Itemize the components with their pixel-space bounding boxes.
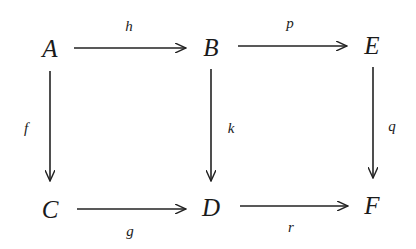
node-f: F: [364, 193, 379, 218]
label-q: q: [388, 119, 396, 134]
label-f: f: [24, 121, 28, 136]
label-g: g: [126, 224, 134, 239]
label-r: r: [288, 220, 294, 235]
node-a: A: [42, 36, 57, 61]
node-d: D: [202, 195, 220, 220]
commutative-diagram: A B E C D F h p f k q g r: [0, 0, 416, 249]
node-e: E: [364, 33, 379, 58]
label-p: p: [286, 16, 294, 31]
label-h: h: [125, 19, 133, 34]
label-k: k: [228, 121, 235, 136]
node-b: B: [203, 35, 218, 60]
node-c: C: [42, 197, 59, 222]
